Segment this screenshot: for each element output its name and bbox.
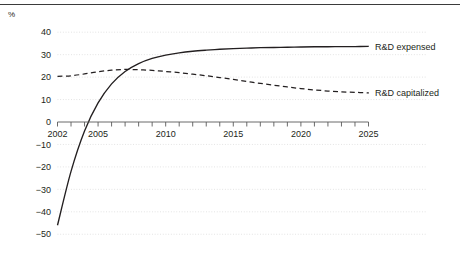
y-tick-label: −10 [36, 140, 51, 150]
chart-figure: % 403020100−10−20−30−40−50 2002200520102… [0, 0, 460, 259]
x-tick-label: 2015 [223, 129, 243, 139]
y-tick-label: 0 [46, 117, 51, 127]
series-line [58, 69, 369, 92]
y-tick-label: 40 [41, 27, 51, 37]
legend-label: R&D capitalized [375, 88, 439, 98]
y-tick-label: 10 [41, 95, 51, 105]
x-tick-label: 2005 [88, 129, 108, 139]
line-chart-plot: 403020100−10−20−30−40−50 200220052010201… [0, 0, 460, 259]
x-axis-group [58, 122, 369, 127]
y-tick-label: 30 [41, 50, 51, 60]
legend-label: R&D expensed [375, 42, 436, 52]
x-tick-labels-group: 200220052010201520202025 [47, 129, 378, 139]
y-tick-label: −50 [36, 229, 51, 239]
y-tick-label: −30 [36, 185, 51, 195]
x-tick-label: 2025 [358, 129, 378, 139]
y-tick-label: −20 [36, 162, 51, 172]
x-tick-label: 2002 [47, 129, 67, 139]
y-tick-label: 20 [41, 72, 51, 82]
chart-legend: R&D expensedR&D capitalized [369, 42, 440, 98]
x-tick-label: 2010 [156, 129, 176, 139]
y-tick-label: −40 [36, 207, 51, 217]
x-tick-label: 2020 [291, 129, 311, 139]
